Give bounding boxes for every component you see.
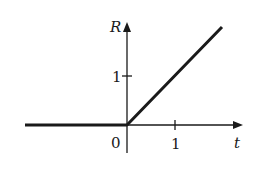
y-axis-label: R [109,18,121,36]
y-axis-arrow-icon [123,22,131,32]
y-tick-label-1: 1 [112,68,122,86]
x-axis-label: t [234,134,241,152]
x-tick-label-1: 1 [171,135,181,153]
origin-label: 0 [111,134,121,152]
x-axis-arrow-icon [233,121,243,129]
ramp-function-chart: R 1 0 1 t [0,0,258,173]
